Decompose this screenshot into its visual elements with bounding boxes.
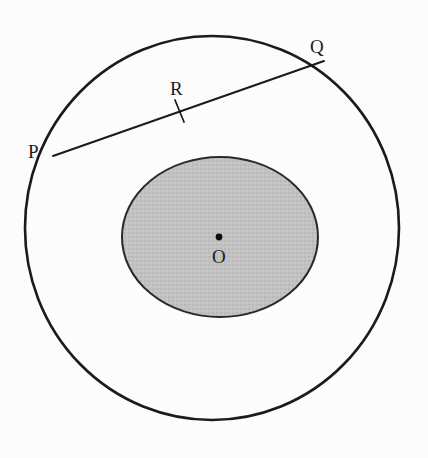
geometry-figure: P Q R O [0, 0, 428, 458]
point-label-o: O [212, 247, 226, 266]
center-point-O [216, 234, 223, 241]
diagram-canvas [0, 0, 428, 458]
point-label-q: Q [310, 37, 324, 56]
point-label-r: R [170, 79, 183, 98]
point-label-p: P [28, 142, 39, 161]
